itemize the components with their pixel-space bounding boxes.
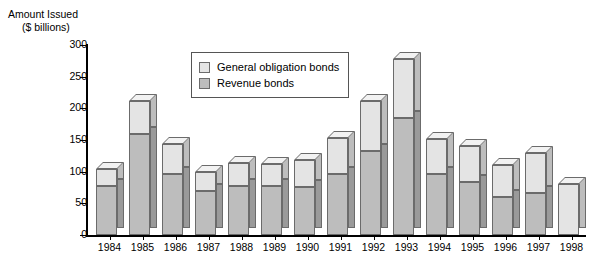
legend-swatch-revenue-bonds xyxy=(199,78,210,89)
bar-side-revenue-1996 xyxy=(513,190,520,228)
bar-1986 xyxy=(162,144,183,235)
bar-side-general-obligation-1993 xyxy=(414,52,421,111)
bar-segment-revenue-1987 xyxy=(195,191,216,235)
bar-segment-revenue-1988 xyxy=(228,186,249,235)
bar-side-revenue-1984 xyxy=(117,179,124,228)
bar-segment-general-obligation-1997 xyxy=(525,153,546,194)
x-axis-tick-mark xyxy=(539,236,540,240)
bar-segment-revenue-1984 xyxy=(96,186,117,235)
x-axis-tick-mark xyxy=(176,236,177,240)
bar-side-revenue-1985 xyxy=(150,127,157,228)
x-axis-tick-mark xyxy=(275,236,276,240)
bar-segment-general-obligation-1990 xyxy=(294,160,315,187)
bar-1991 xyxy=(327,138,348,235)
x-axis-tick-mark xyxy=(209,236,210,240)
bar-side-revenue-1997 xyxy=(546,186,553,228)
bar-1985 xyxy=(129,101,150,235)
bar-1990 xyxy=(294,160,315,235)
bar-1993 xyxy=(393,59,414,235)
bar-side-revenue-1989 xyxy=(282,179,289,228)
bar-segment-general-obligation-1986 xyxy=(162,144,183,173)
x-axis-tick-mark xyxy=(440,236,441,240)
bar-side-revenue-1988 xyxy=(249,179,256,228)
bar-segment-general-obligation-1991 xyxy=(327,138,348,174)
bar-side-general-obligation-1998 xyxy=(579,177,586,228)
bar-side-revenue-1987 xyxy=(216,184,223,228)
legend-swatch-general-obligation-bonds xyxy=(199,62,210,73)
x-axis-tick-mark xyxy=(143,236,144,240)
bar-side-revenue-1993 xyxy=(414,111,421,228)
bar-segment-revenue-1997 xyxy=(525,193,546,235)
bar-1987 xyxy=(195,172,216,235)
bar-segment-revenue-1995 xyxy=(459,182,480,235)
x-axis-tick-mark xyxy=(572,236,573,240)
x-axis-tick-mark xyxy=(308,236,309,240)
bar-side-revenue-1991 xyxy=(348,167,355,228)
bar-side-revenue-1995 xyxy=(480,175,487,228)
bar-side-revenue-1994 xyxy=(447,167,454,228)
bars-layer xyxy=(0,0,593,265)
legend-label-revenue-bonds: Revenue bonds xyxy=(217,77,294,89)
bar-segment-general-obligation-1995 xyxy=(459,146,480,181)
legend-item-revenue-bonds: Revenue bonds xyxy=(199,75,339,91)
x-axis-tick-label-1998: 1998 xyxy=(552,241,592,253)
bar-segment-general-obligation-1987 xyxy=(195,172,216,190)
bar-1994 xyxy=(426,139,447,235)
bar-side-revenue-1986 xyxy=(183,167,190,228)
bar-segment-general-obligation-1988 xyxy=(228,163,249,185)
bar-1996 xyxy=(492,165,513,235)
bar-segment-revenue-1986 xyxy=(162,174,183,235)
bar-chart: Amount Issued ($ billions) 0501001502002… xyxy=(0,0,593,265)
bar-segment-revenue-1993 xyxy=(393,118,414,235)
bar-1997 xyxy=(525,153,546,235)
x-axis-tick-mark xyxy=(374,236,375,240)
bar-segment-general-obligation-1984 xyxy=(96,169,117,186)
bar-segment-revenue-1990 xyxy=(294,187,315,235)
bar-segment-revenue-1985 xyxy=(129,134,150,235)
bar-1989 xyxy=(261,164,282,235)
x-axis-tick-mark xyxy=(506,236,507,240)
chart-legend: General obligation bonds Revenue bonds xyxy=(191,52,349,98)
bar-segment-general-obligation-1992 xyxy=(360,101,381,152)
x-axis-tick-mark xyxy=(473,236,474,240)
bar-segment-general-obligation-1993 xyxy=(393,59,414,118)
bar-segment-revenue-1992 xyxy=(360,151,381,235)
x-axis-tick-mark xyxy=(407,236,408,240)
bar-1984 xyxy=(96,169,117,236)
bar-side-revenue-1992 xyxy=(381,144,388,228)
bar-segment-revenue-1994 xyxy=(426,174,447,235)
legend-label-general-obligation-bonds: General obligation bonds xyxy=(217,61,339,73)
bar-side-revenue-1990 xyxy=(315,180,322,228)
bar-segment-general-obligation-1998 xyxy=(558,184,579,235)
bar-1992 xyxy=(360,101,381,235)
bar-segment-general-obligation-1996 xyxy=(492,165,513,197)
bar-segment-revenue-1991 xyxy=(327,174,348,235)
bar-segment-general-obligation-1985 xyxy=(129,101,150,134)
bar-1998 xyxy=(558,184,579,235)
bar-side-general-obligation-1992 xyxy=(381,94,388,145)
x-axis-tick-mark xyxy=(110,236,111,240)
bar-segment-general-obligation-1989 xyxy=(261,164,282,186)
x-axis-tick-mark xyxy=(341,236,342,240)
bar-segment-general-obligation-1994 xyxy=(426,139,447,174)
bar-segment-revenue-1996 xyxy=(492,197,513,235)
bar-segment-revenue-1989 xyxy=(261,186,282,235)
legend-item-general-obligation-bonds: General obligation bonds xyxy=(199,59,339,75)
bar-1988 xyxy=(228,163,249,235)
bar-1995 xyxy=(459,146,480,235)
x-axis-tick-mark xyxy=(242,236,243,240)
